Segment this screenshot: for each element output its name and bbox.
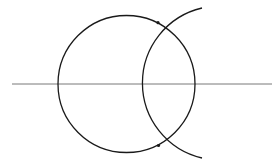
intersection-point-top: [156, 21, 159, 24]
construction-diagram: [0, 0, 278, 166]
intersection-point-bottom: [157, 144, 160, 147]
